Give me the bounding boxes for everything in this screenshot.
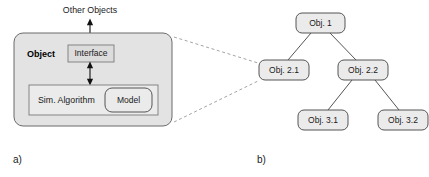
zoom-line-top [174,37,258,63]
figure-root: Other Objects Object Interface Sim. Al [0,0,429,177]
tree-node-obj32: Obj. 3.2 [378,110,428,130]
tree-node-obj31: Obj. 3.1 [298,110,348,130]
tree-node-obj32-label: Obj. 3.2 [388,115,418,125]
panel-a: Other Objects Object Interface Sim. Al [13,5,172,165]
tree-node-obj21: Obj. 2.1 [259,60,309,80]
tree-node-obj1-label: Obj. 1 [309,18,332,28]
interface-box-label: Interface [74,48,107,58]
tree-edge-obj1-obj22 [330,33,356,60]
tree-node-obj31-label: Obj. 3.1 [308,115,338,125]
panel-label-a: a) [13,154,22,165]
tree-node-obj1: Obj. 1 [296,13,345,33]
zoom-connectors [174,37,258,122]
model-box-label: Model [117,95,140,105]
tree-edge-obj1-obj21 [288,33,311,60]
object-box-title: Object [27,49,55,59]
panel-label-b: b) [257,154,266,165]
tree-node-obj22-label: Obj. 2.2 [348,65,378,75]
zoom-line-bottom [174,81,258,122]
diagram-canvas: Other Objects Object Interface Sim. Al [0,0,429,177]
tree-edge-obj22-obj31 [328,80,352,110]
tree-edge-obj22-obj32 [375,80,399,110]
tree-node-obj21-label: Obj. 2.1 [269,65,299,75]
other-objects-label: Other Objects [63,5,118,15]
panel-b: Obj. 1 Obj. 2.1 Obj. 2.2 Obj. 3.1 Obj. 3… [257,13,428,165]
tree-node-obj22: Obj. 2.2 [338,60,388,80]
sim-algorithm-label: Sim. Algorithm [38,95,95,105]
